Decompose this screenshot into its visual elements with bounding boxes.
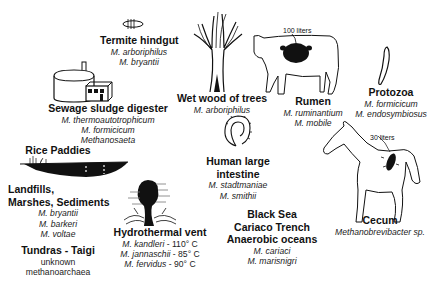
rumen-volume-label: 100 liters: [283, 27, 311, 34]
tundras-label: Tundras - Taigi unknown methanoarchaea: [18, 244, 98, 277]
rumen-label: Rumen M. ruminantium M. mobile: [278, 95, 348, 128]
black-sea-label: Black Sea Cariaco Trench Anaerobic ocean…: [222, 208, 322, 266]
hydrothermal-vent-icon: [122, 178, 178, 228]
sewage-digester-icon: [52, 62, 114, 102]
sewage-digester-label: Sewage sludge digester M. thermoautotrop…: [48, 102, 168, 146]
protozoa-label: Protozoa M. formicicum M. endosymbiosus: [350, 86, 432, 119]
landfills-label: Landfills, Marshes, Sediments M. bryanti…: [8, 183, 108, 239]
vent-species-row: M. kandleri - 110° C: [112, 239, 208, 249]
tree-icon: [190, 10, 246, 92]
rice-paddies-label: Rice Paddies: [22, 144, 94, 157]
hydrothermal-vent-label: Hydrothermal vent M. kandleri - 110° C M…: [112, 226, 208, 270]
cecum-volume-label: 30 liters: [370, 134, 395, 141]
termite-hindgut-label: Termite hindgut M. arboriphilus M. bryan…: [100, 34, 178, 67]
vent-species-row: M. fervidus - 90° C: [112, 259, 208, 269]
termite-icon: [122, 18, 144, 30]
vent-species-row: M. jannaschii - 85° C: [112, 249, 208, 259]
human-intestine-label: Human large intestine M. stadtmaniae M. …: [200, 155, 276, 201]
cow-icon: [252, 32, 348, 96]
wet-wood-label: Wet wood of trees M. arboriphilus: [172, 92, 272, 115]
rice-paddy-icon: [16, 160, 128, 178]
protozoa-icon: [377, 46, 391, 86]
intestine-icon: [222, 114, 252, 148]
cecum-label: Cecum Methanobrevibacter sp.: [330, 214, 430, 237]
